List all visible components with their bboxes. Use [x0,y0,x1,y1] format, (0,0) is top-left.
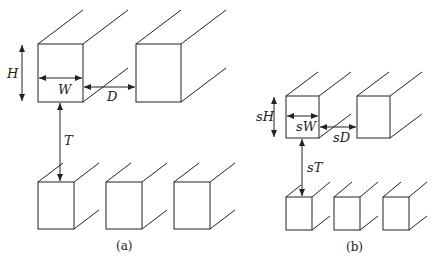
panel-a: H W D T (a) [6,10,235,253]
wire-bottom-3-a [174,163,235,229]
label-H-a: H [6,66,19,81]
label-T-b: sT [307,160,324,175]
label-W-a: W [58,82,73,97]
wire-top-right-b [357,72,422,138]
label-H-b: sH [256,109,275,124]
label-W-b: sW [296,119,318,134]
wire-bottom-1-b [286,182,330,230]
panel-b: sH sW sD sT (b) [256,72,427,254]
wire-bottom-2-b [334,182,378,230]
label-T-a: T [64,133,74,148]
label-D-a: D [106,89,118,104]
caption-b: (b) [346,240,363,254]
wire-bottom-1-a [38,163,99,229]
wire-bottom-2-a [106,163,167,229]
caption-a: (a) [116,239,133,253]
label-D-b: sD [333,130,351,145]
wire-top-right-a [136,10,226,102]
wire-bottom-3-b [383,182,427,230]
wire-array-diagram: H W D T (a) [0,0,437,262]
